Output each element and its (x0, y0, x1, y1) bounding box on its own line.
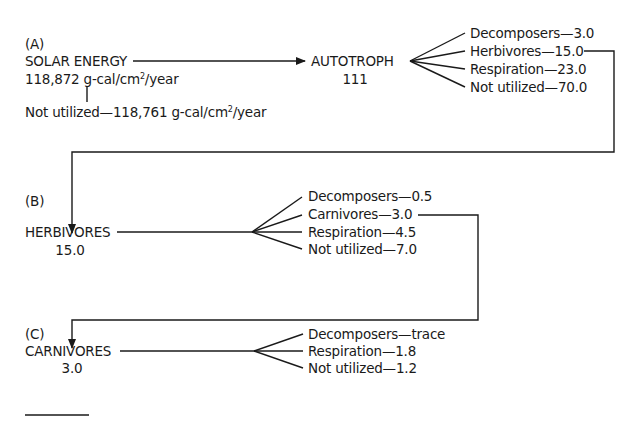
carnivores-branch: Decomposers—trace (308, 326, 445, 342)
carnivores-branch: Not utilized—1.2 (308, 360, 417, 376)
solar-energy-label: SOLAR ENERGY (25, 53, 127, 69)
herbivores-branch: Decomposers—0.5 (308, 188, 432, 204)
solar-not-utilized: Not utilized—118,761 g-cal/cm2/year (25, 104, 266, 120)
autotroph-branch: Respiration—23.0 (470, 61, 586, 77)
herbivores-branch: Respiration—4.5 (308, 224, 416, 240)
autotroph-branch: Herbivores—15.0 (470, 43, 584, 59)
autotroph-value: 111 (311, 71, 399, 87)
carnivores-label: CARNIVORES (25, 343, 111, 359)
section-b-label: (B) (25, 193, 44, 209)
autotroph-branch: Not utilized—70.0 (470, 79, 587, 95)
carnivores-value: 3.0 (25, 360, 119, 376)
autotroph-branch: Decomposers—3.0 (470, 25, 594, 41)
section-c-label: (C) (25, 326, 44, 342)
herbivores-label: HERBIVORES (25, 224, 110, 240)
herbivores-value: 15.0 (25, 242, 115, 258)
section-a-label: (A) (25, 36, 44, 52)
autotroph-label: AUTOTROPH (311, 53, 394, 69)
herbivores-branch: Not utilized—7.0 (308, 241, 417, 257)
solar-energy-value: 118,872 g-cal/cm2/year (25, 71, 179, 87)
carnivores-branch: Respiration—1.8 (308, 343, 416, 359)
herbivores-branch: Carnivores—3.0 (308, 206, 412, 222)
